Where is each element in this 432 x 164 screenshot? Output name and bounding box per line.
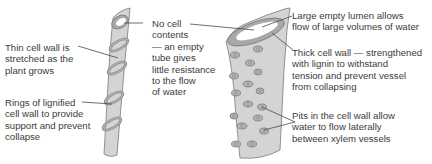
right-vessel <box>224 8 290 158</box>
label-pits: Pits in the cell wall allow water to flo… <box>292 110 395 144</box>
left-vessel <box>101 8 130 156</box>
label-no-cell-contents: No cell contents — an empty tube gives l… <box>152 18 215 98</box>
label-lignified-rings: Rings of lignified cell wall to provide … <box>5 97 90 143</box>
label-large-empty-lumen: Large empty lumen allows flow of large v… <box>292 10 419 33</box>
label-thin-cell-wall: Thin cell wall is stretched as the plant… <box>5 42 73 76</box>
label-thick-cell-wall: Thick cell wall — strengthened with lign… <box>292 47 422 93</box>
